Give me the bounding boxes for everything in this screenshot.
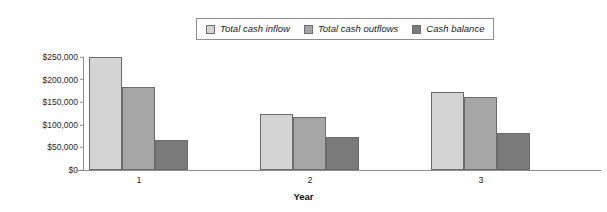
y-axis-tick-label: $250,000: [43, 53, 78, 62]
y-axis-tick: $100,000: [43, 121, 84, 130]
bar-total-cash-outflows: [293, 117, 326, 170]
bar-total-cash-outflows: [122, 87, 155, 170]
legend-item-label: Total cash outflows: [318, 24, 398, 34]
y-axis-tick: $250,000: [43, 53, 84, 62]
legend-item-total-cash-inflow: Total cash inflow: [206, 24, 290, 34]
legend-item-label: Cash balance: [426, 24, 484, 34]
y-axis-tick: $50,000: [47, 143, 84, 152]
x-axis-title: Year: [0, 192, 607, 202]
y-axis: $250,000 $200,000 $150,000 $100,000 $50,…: [0, 0, 84, 212]
bar-group-year-1: [89, 57, 188, 170]
x-axis-line: [76, 170, 601, 171]
bar-total-cash-inflow: [89, 57, 122, 170]
bar-total-cash-inflow: [431, 92, 464, 170]
plot-area: [84, 57, 598, 170]
bar-total-cash-inflow: [260, 114, 293, 170]
y-axis-tick-label: $150,000: [43, 98, 78, 107]
x-axis-tick-label: 2: [307, 176, 312, 185]
y-axis-tick-label: $200,000: [43, 75, 78, 84]
y-axis-tick-label: $100,000: [43, 121, 78, 130]
bar-cash-balance: [326, 137, 359, 170]
y-axis-tick: $200,000: [43, 75, 84, 84]
bar-total-cash-outflows: [464, 97, 497, 170]
bar-cash-balance: [155, 140, 188, 170]
legend-swatch-icon: [412, 25, 421, 34]
legend-item-total-cash-outflows: Total cash outflows: [304, 24, 398, 34]
bar-group-year-3: [431, 57, 530, 170]
legend-item-label: Total cash inflow: [220, 24, 290, 34]
x-axis-tick-label: 1: [136, 176, 141, 185]
bar-group-year-2: [260, 57, 359, 170]
y-axis-tick-label: $50,000: [47, 143, 78, 152]
bar-cash-balance: [497, 133, 530, 170]
legend-item-cash-balance: Cash balance: [412, 24, 484, 34]
legend-swatch-icon: [206, 25, 215, 34]
y-axis-tick: $150,000: [43, 98, 84, 107]
x-axis-tick-label: 3: [478, 176, 483, 185]
legend-swatch-icon: [304, 25, 313, 34]
bar-chart: Total cash inflow Total cash outflows Ca…: [0, 0, 607, 212]
chart-legend: Total cash inflow Total cash outflows Ca…: [196, 18, 494, 40]
